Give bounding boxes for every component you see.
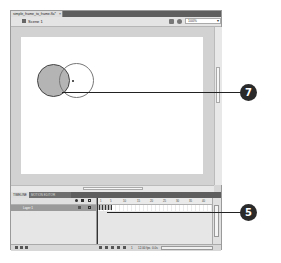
document-tab-label: simple_frame_to_frame.fla* — [13, 12, 56, 16]
stage-vertical-scroll-thumb[interactable] — [216, 67, 220, 103]
delete-layer-icon[interactable] — [25, 246, 28, 249]
timeline-footer: 1 12.00 fps 0.0s — [11, 244, 221, 251]
ruler-tick: 20 — [150, 198, 153, 204]
edit-multiple-frames-icon[interactable] — [117, 246, 120, 249]
zoom-value: 100% — [188, 19, 197, 23]
scene-icon — [22, 19, 26, 23]
callout-leader-line — [107, 212, 242, 213]
pencil-icon — [78, 206, 81, 209]
center-frame-icon[interactable] — [99, 246, 102, 249]
ruler-tick: 15 — [137, 198, 140, 204]
timeline-horizontal-scrollbar[interactable] — [161, 246, 213, 250]
chevron-down-icon: ▾ — [217, 19, 219, 24]
ruler-tick: 40 — [202, 198, 205, 204]
ruler-tick: 30 — [176, 198, 179, 204]
frame-rate[interactable]: 12.00 fps — [138, 245, 150, 251]
pasteboard — [11, 27, 214, 185]
ruler-tick: 5 — [110, 198, 112, 204]
outline-icon[interactable] — [88, 199, 91, 202]
ruler-tick: 25 — [163, 198, 166, 204]
playhead[interactable] — [97, 198, 98, 244]
elapsed-time: 0.0s — [152, 245, 158, 251]
registration-point-icon — [72, 80, 74, 82]
edit-bar: Scene 1 100% ▾ — [11, 17, 221, 27]
stage-vertical-scrollbar[interactable] — [214, 27, 222, 185]
show-hide-icon[interactable] — [75, 199, 78, 202]
onion-skin-icon[interactable] — [105, 246, 108, 249]
callout-7: 7 — [240, 84, 257, 101]
timeline-vertical-scroll-thumb[interactable] — [214, 205, 219, 237]
keyframes-block[interactable] — [96, 205, 112, 210]
stage-horizontal-scroll-thumb[interactable] — [83, 187, 143, 190]
layer-outline-box-icon[interactable] — [88, 206, 91, 209]
timeline-vertical-scrollbar[interactable] — [212, 198, 221, 244]
edit-symbols-icon[interactable] — [169, 19, 174, 24]
scene-label[interactable]: Scene 1 — [28, 18, 43, 25]
new-layer-icon[interactable] — [15, 246, 18, 249]
onion-skin-outlines-icon[interactable] — [111, 246, 114, 249]
modify-onion-markers-icon[interactable] — [123, 246, 126, 249]
callout-5: 5 — [240, 204, 257, 221]
new-folder-icon[interactable] — [20, 246, 23, 249]
callout-leader-line — [62, 92, 242, 93]
lock-icon[interactable] — [81, 199, 84, 202]
stage[interactable] — [21, 37, 203, 174]
frame-ruler[interactable]: 1 5 10 15 20 25 30 35 40 — [96, 198, 213, 204]
ruler-tick: 10 — [123, 198, 126, 204]
flash-application-window: simple_frame_to_frame.fla* × Scene 1 100… — [10, 10, 222, 250]
ruler-tick: 1 — [100, 198, 102, 204]
edit-scene-icon[interactable] — [177, 19, 182, 24]
stage-horizontal-scrollbar[interactable] — [11, 185, 214, 192]
zoom-dropdown[interactable]: 100% ▾ — [185, 18, 221, 24]
timeline-header: 1 5 10 15 20 25 30 35 40 — [11, 198, 221, 205]
ruler-tick: 35 — [189, 198, 192, 204]
current-frame: 1 — [131, 245, 133, 251]
timeline-body — [11, 211, 221, 244]
